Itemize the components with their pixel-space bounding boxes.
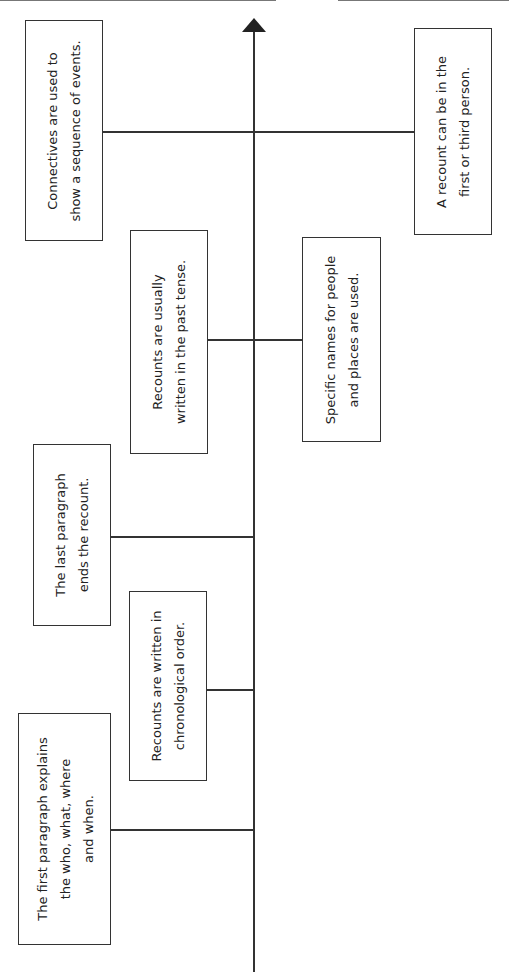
box-specific-names: Specific names for people and places are… <box>302 237 381 442</box>
connector-first-paragraph <box>110 829 254 831</box>
box-first-or-third-person-text: A recount can be in the first or third p… <box>430 55 476 207</box>
connector-past-tense-to-specific-names <box>207 339 303 341</box>
page-top-rule-right <box>338 0 509 1</box>
box-connectives-text: Connectives are used to show a sequence … <box>41 40 87 221</box>
box-chronological-order-text: Recounts are written in chronological or… <box>145 610 191 761</box>
connector-chronological-order <box>206 689 254 691</box>
page-top-rule-left <box>0 0 276 1</box>
box-chronological-order: Recounts are written in chronological or… <box>129 591 207 781</box>
box-connectives: Connectives are used to show a sequence … <box>25 20 103 241</box>
box-specific-names-text: Specific names for people and places are… <box>319 255 365 424</box>
box-first-paragraph-text: The first paragraph explains the who, wh… <box>30 737 99 920</box>
box-last-paragraph-text: The last paragraph ends the recount. <box>49 473 95 596</box>
box-first-or-third-person: A recount can be in the first or third p… <box>414 28 492 235</box>
box-last-paragraph: The last paragraph ends the recount. <box>33 444 111 626</box>
box-past-tense-text: Recounts are usually written in the past… <box>146 260 192 424</box>
connector-connectives-to-person <box>102 131 415 133</box>
box-past-tense: Recounts are usually written in the past… <box>130 230 208 454</box>
connector-last-paragraph <box>110 536 254 538</box>
box-first-paragraph: The first paragraph explains the who, wh… <box>18 713 111 945</box>
arrow-up-icon <box>242 18 266 32</box>
